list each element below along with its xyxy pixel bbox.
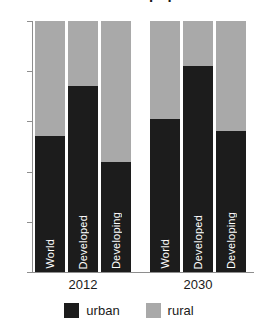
tick-mark bbox=[27, 21, 32, 22]
legend-swatch-urban bbox=[64, 303, 79, 318]
legend-label: rural bbox=[168, 303, 194, 318]
legend-item-urban[interactable]: urban bbox=[64, 303, 119, 318]
bar-segment-rural bbox=[150, 21, 180, 119]
bar-2030-developed[interactable]: Developed bbox=[183, 21, 213, 272]
group-label-2012: 2012 bbox=[53, 277, 113, 292]
bar-category-label: Developing bbox=[101, 209, 131, 269]
plot-area: WorldDevelopedDevelopingWorldDevelopedDe… bbox=[32, 21, 255, 272]
tick-mark bbox=[27, 172, 32, 173]
legend-item-rural[interactable]: rural bbox=[146, 303, 194, 318]
bar-segment-rural bbox=[216, 21, 246, 131]
tick-mark bbox=[27, 121, 32, 122]
bar-category-label: Developed bbox=[68, 209, 98, 269]
bar-segment-rural bbox=[68, 21, 98, 86]
bar-chart: Urban and rural population WorldDevelope… bbox=[0, 0, 258, 328]
bar-2012-developed[interactable]: Developed bbox=[68, 21, 98, 272]
bar-category-label: World bbox=[150, 209, 180, 269]
legend-swatch-rural bbox=[146, 303, 161, 318]
tick-mark bbox=[27, 71, 32, 72]
group-label-2030: 2030 bbox=[168, 277, 228, 292]
tick-mark bbox=[27, 222, 32, 223]
bar-category-label: World bbox=[35, 209, 65, 269]
bar-segment-rural bbox=[35, 21, 65, 136]
bar-2030-world[interactable]: World bbox=[150, 21, 180, 272]
bar-segment-rural bbox=[183, 21, 213, 66]
bar-category-label: Developed bbox=[183, 209, 213, 269]
legend-label: urban bbox=[86, 303, 119, 318]
tick-mark bbox=[27, 272, 32, 273]
chart-legend: urbanrural bbox=[0, 303, 258, 318]
bar-segment-rural bbox=[101, 21, 131, 162]
bar-category-label: Developing bbox=[216, 209, 246, 269]
x-axis-line bbox=[32, 272, 254, 273]
bar-2012-world[interactable]: World bbox=[35, 21, 65, 272]
bar-2030-developing[interactable]: Developing bbox=[216, 21, 246, 272]
chart-title: Urban and rural population bbox=[0, 0, 258, 2]
bar-2012-developing[interactable]: Developing bbox=[101, 21, 131, 272]
